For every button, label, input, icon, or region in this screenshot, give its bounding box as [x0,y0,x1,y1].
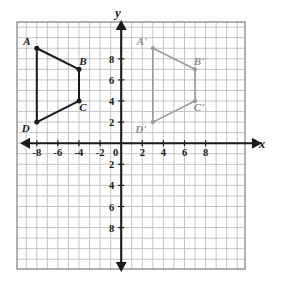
y-tick-label: 6 [109,75,114,86]
y-axis-label: y [113,5,121,20]
vertex-point-Dp [151,120,155,124]
vertex-label-Dp: D' [134,123,146,135]
x-tick-label: 0 [113,147,118,158]
x-axis-label: x [258,136,266,151]
y-tick-label: 2 [109,159,114,170]
vertex-point-A [34,46,39,51]
x-tick-label: 8 [203,147,208,158]
y-tick-label: 6 [109,202,114,213]
vertex-label-Bp: B' [193,55,204,67]
y-tick-label: 4 [109,96,115,107]
y-tick-label: 4 [109,180,115,191]
x-tick-label: 6 [182,147,187,158]
x-tick-label: -8 [32,147,41,158]
vertex-point-Ap [151,46,155,50]
x-tick-label: -4 [75,147,84,158]
vertex-label-C: C [79,101,87,113]
y-tick-label: 8 [109,223,114,234]
y-tick-label: 2 [109,117,114,128]
vertex-point-B [77,67,82,72]
x-tick-label: 2 [140,147,145,158]
y-tick-label: 8 [109,54,114,65]
x-tick-label: -6 [54,147,63,158]
vertex-label-Ap: A' [136,35,147,47]
x-tick-label: 4 [161,147,167,158]
coordinate-plane-svg: -8-6-4-20246886422468 ABCDA'B'C'D' x y [0,0,281,288]
vertex-point-Bp [193,67,197,71]
coordinate-plane-figure: -8-6-4-20246886422468 ABCDA'B'C'D' x y [0,0,281,288]
vertex-label-B: B [78,55,86,67]
vertex-label-A: A [22,35,30,47]
x-tick-label: -2 [96,147,105,158]
vertex-point-D [34,120,39,125]
vertex-label-Cp: C' [194,101,204,113]
vertex-label-D: D [21,122,30,134]
